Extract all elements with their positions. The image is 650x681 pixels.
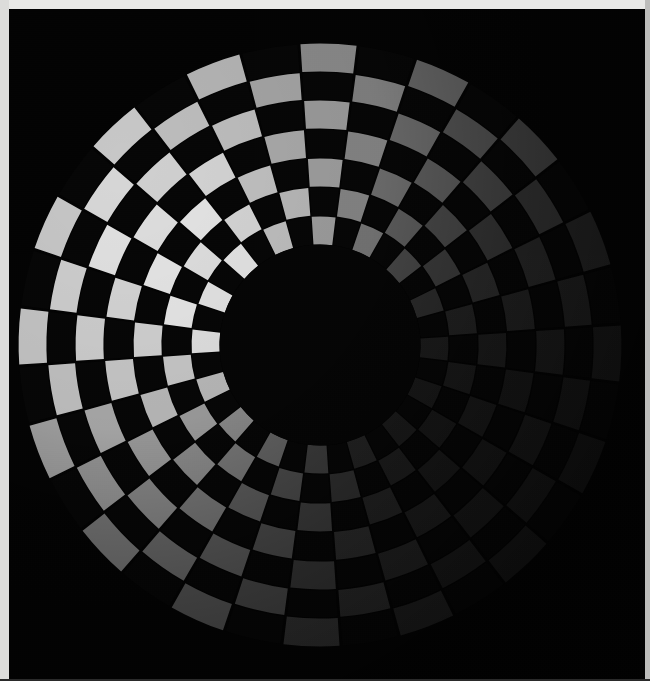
checker-tile — [300, 44, 356, 74]
checker-tile — [310, 188, 339, 217]
checker-tile — [297, 502, 332, 531]
checker-tile — [535, 329, 564, 375]
checker-tile — [449, 335, 478, 364]
checker-tile — [287, 589, 338, 618]
checker-tile — [592, 325, 622, 381]
frame-edge-left — [0, 0, 9, 681]
checker-tile — [420, 337, 449, 361]
checker-tile — [304, 101, 350, 130]
checker-tile — [308, 159, 343, 188]
checker-tile — [105, 319, 134, 359]
checker-tile — [506, 331, 535, 371]
checker-tile — [301, 474, 330, 503]
checker-tile — [48, 312, 77, 363]
checker-tile — [19, 308, 49, 364]
checker-tile — [76, 315, 105, 361]
checker-tile — [477, 333, 506, 368]
radial-checkerboard-svg — [9, 9, 645, 679]
checker-tile — [564, 327, 593, 378]
checker-tile — [302, 73, 353, 102]
checker-tile — [163, 326, 192, 355]
checker-tile — [312, 217, 336, 246]
checker-tile — [290, 560, 336, 589]
radial-checkerboard-photo — [9, 9, 645, 679]
screenshot-root — [0, 0, 650, 681]
center-disc — [220, 245, 421, 446]
checker-tile — [304, 445, 328, 474]
checker-tile — [283, 617, 339, 647]
frame-edge-right — [645, 0, 650, 681]
checker-tile — [192, 329, 221, 353]
checker-tile — [294, 531, 334, 560]
frame-edge-top — [0, 0, 650, 9]
checker-tile — [134, 322, 163, 357]
checker-tile — [306, 130, 346, 159]
